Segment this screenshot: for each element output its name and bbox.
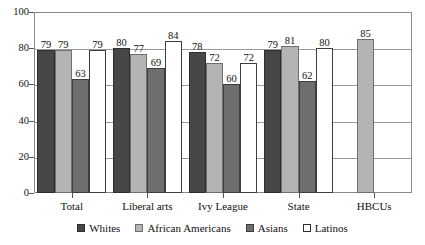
legend-label: Asians bbox=[258, 222, 288, 234]
chart-legend: WhitesAfrican AmericansAsiansLatinos bbox=[0, 222, 425, 234]
y-tick-mark-0 bbox=[29, 193, 34, 194]
bar-state-whites: 79 bbox=[264, 50, 281, 193]
bar-value-label: 79 bbox=[92, 39, 103, 50]
legend-swatch-icon bbox=[135, 224, 143, 232]
bar-group-ivy-league: 78726072 bbox=[185, 12, 261, 193]
bar-value-label: 79 bbox=[41, 39, 52, 50]
legend-item-latinos[interactable]: Latinos bbox=[303, 222, 348, 234]
bar-total-latinos: 79 bbox=[89, 50, 106, 193]
bar-state-asians: 62 bbox=[299, 81, 316, 193]
y-tick-label-80: 80 bbox=[0, 43, 29, 53]
x-category-label-ivy-league: Ivy League bbox=[185, 200, 261, 213]
bar-value-label: 85 bbox=[360, 28, 371, 39]
bar-group-hbcus: 85 bbox=[336, 12, 412, 193]
x-tick-mark-3 bbox=[299, 193, 300, 198]
x-category-label-liberal-arts: Liberal arts bbox=[110, 200, 186, 213]
bar-liberal-arts-african-americans: 77 bbox=[130, 54, 147, 193]
bar-total-asians: 63 bbox=[72, 79, 89, 193]
x-category-label-state: State bbox=[261, 200, 337, 213]
bar-ivy-league-asians: 60 bbox=[223, 84, 240, 193]
legend-item-african-americans[interactable]: African Americans bbox=[135, 222, 230, 234]
bar-value-label: 62 bbox=[302, 70, 313, 81]
bar-value-label: 60 bbox=[226, 73, 237, 84]
bar-value-label: 72 bbox=[244, 52, 255, 63]
x-tick-mark-4 bbox=[374, 193, 375, 198]
x-tick-mark-2 bbox=[223, 193, 224, 198]
legend-swatch-icon bbox=[77, 224, 85, 232]
x-category-label-hbcus: HBCUs bbox=[336, 200, 412, 213]
x-tick-mark-0 bbox=[72, 193, 73, 198]
bar-ivy-league-whites: 78 bbox=[189, 52, 206, 193]
bar-ivy-league-latinos: 72 bbox=[240, 63, 257, 193]
y-tick-label-100: 100 bbox=[0, 7, 29, 17]
legend-label: Whites bbox=[89, 222, 120, 234]
bar-value-label: 81 bbox=[285, 35, 296, 46]
bar-total-african-americans: 79 bbox=[55, 50, 72, 193]
bar-liberal-arts-whites: 80 bbox=[113, 48, 130, 193]
y-tick-label-60: 60 bbox=[0, 79, 29, 89]
bar-value-label: 80 bbox=[319, 37, 330, 48]
y-tick-label-40: 40 bbox=[0, 116, 29, 126]
bar-group-total: 79796379 bbox=[34, 12, 110, 193]
y-tick-label-20: 20 bbox=[0, 152, 29, 162]
bar-value-label: 84 bbox=[168, 30, 179, 41]
x-tick-mark-1 bbox=[147, 193, 148, 198]
legend-swatch-icon bbox=[303, 224, 311, 232]
bars-layer: 7979637980776984787260727981628085 bbox=[34, 12, 412, 193]
bar-state-african-americans: 81 bbox=[281, 46, 298, 193]
legend-label: Latinos bbox=[315, 222, 348, 234]
legend-item-whites[interactable]: Whites bbox=[77, 222, 120, 234]
bar-ivy-league-african-americans: 72 bbox=[206, 63, 223, 193]
bar-value-label: 80 bbox=[116, 37, 127, 48]
bar-value-label: 63 bbox=[75, 68, 86, 79]
bar-liberal-arts-asians: 69 bbox=[147, 68, 164, 193]
bar-value-label: 77 bbox=[134, 43, 145, 54]
bar-group-state: 79816280 bbox=[261, 12, 337, 193]
legend-swatch-icon bbox=[246, 224, 254, 232]
bar-total-whites: 79 bbox=[37, 50, 54, 193]
bar-liberal-arts-latinos: 84 bbox=[165, 41, 182, 193]
bar-value-label: 79 bbox=[268, 39, 279, 50]
bar-chart: 020406080100 797963798077698478726072798… bbox=[0, 0, 425, 245]
bar-value-label: 69 bbox=[151, 57, 162, 68]
bar-value-label: 78 bbox=[192, 41, 203, 52]
bar-hbcus-african-americans: 85 bbox=[357, 39, 374, 193]
x-category-label-total: Total bbox=[34, 200, 110, 213]
bar-state-latinos: 80 bbox=[316, 48, 333, 193]
legend-item-asians[interactable]: Asians bbox=[246, 222, 288, 234]
bar-value-label: 79 bbox=[58, 39, 69, 50]
bar-group-liberal-arts: 80776984 bbox=[110, 12, 186, 193]
y-tick-label-0: 0 bbox=[0, 188, 29, 198]
bar-value-label: 72 bbox=[209, 52, 220, 63]
legend-label: African Americans bbox=[147, 222, 230, 234]
